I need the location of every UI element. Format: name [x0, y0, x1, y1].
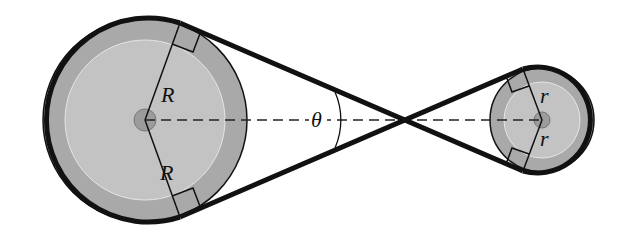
- label-r-bottom: r: [540, 126, 549, 151]
- belt-pulley-diagram: R R r r θ: [0, 0, 634, 235]
- label-r-top: r: [540, 83, 549, 108]
- label-R-bottom: R: [159, 160, 174, 185]
- label-R-top: R: [160, 82, 175, 107]
- label-theta: θ: [311, 107, 322, 132]
